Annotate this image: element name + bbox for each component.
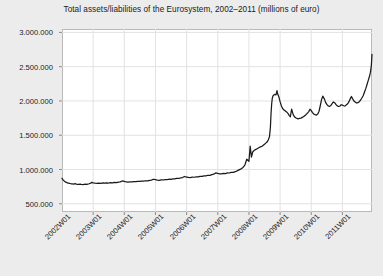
x-axis-tick-label: 2009W01 — [261, 212, 290, 241]
x-axis-tick-label: 2006W01 — [168, 212, 197, 241]
y-axis-tick-label: 3.000.000 — [19, 28, 58, 37]
x-axis-tick-label: 2002W01 — [43, 212, 72, 241]
y-axis-tick-label: 500.000 — [26, 199, 58, 208]
chart-container: Total assets/liabilities of the Eurosyst… — [0, 0, 383, 276]
plot-area-wrapper — [62, 29, 372, 212]
y-axis-tick-label: 1.500.000 — [19, 131, 58, 140]
x-axis-tick-label: 2005W01 — [136, 212, 165, 241]
y-axis-labels: 3.000.0002.500.0002.000.0001.500.0001.00… — [0, 29, 58, 212]
y-axis-tick-label: 1.000.000 — [19, 165, 58, 174]
x-axis-tick-label: 2008W01 — [230, 212, 259, 241]
y-axis-tick-label: 2.000.000 — [19, 96, 58, 105]
x-axis-tick-label: 2011W01 — [324, 212, 353, 241]
x-axis-labels: 2002W012003W012004W012005W012006W012007W… — [62, 212, 372, 276]
x-axis-tick-label: 2010W01 — [292, 212, 321, 241]
x-axis-tick-label: 2003W01 — [74, 212, 103, 241]
y-axis-tick-label: 2.500.000 — [19, 62, 58, 71]
chart-title: Total assets/liabilities of the Eurosyst… — [0, 5, 383, 14]
x-axis-tick-label: 2004W01 — [105, 212, 134, 241]
data-series-line — [62, 29, 372, 212]
x-axis-tick-label: 2007W01 — [199, 212, 228, 241]
